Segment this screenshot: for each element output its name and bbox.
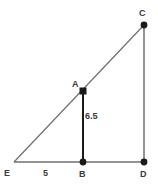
segment-EC <box>14 25 144 162</box>
vertex-label-E: E <box>4 168 10 178</box>
vertex-label-A: A <box>72 79 79 89</box>
vertex-label-C: C <box>139 8 146 18</box>
measure-label-AB: 6.5 <box>85 111 98 121</box>
vertex-label-B: B <box>79 169 86 179</box>
vertex-label-D: D <box>140 169 147 179</box>
vertex-marker-A <box>80 88 87 95</box>
geometry-diagram-canvas <box>0 0 158 186</box>
vertex-marker-D <box>141 159 148 166</box>
measure-label-EB: 5 <box>43 168 48 178</box>
vertex-marker-C <box>141 22 148 29</box>
geometry-figure: C A E B D 6.5 5 <box>0 0 158 186</box>
vertex-marker-B <box>80 159 87 166</box>
